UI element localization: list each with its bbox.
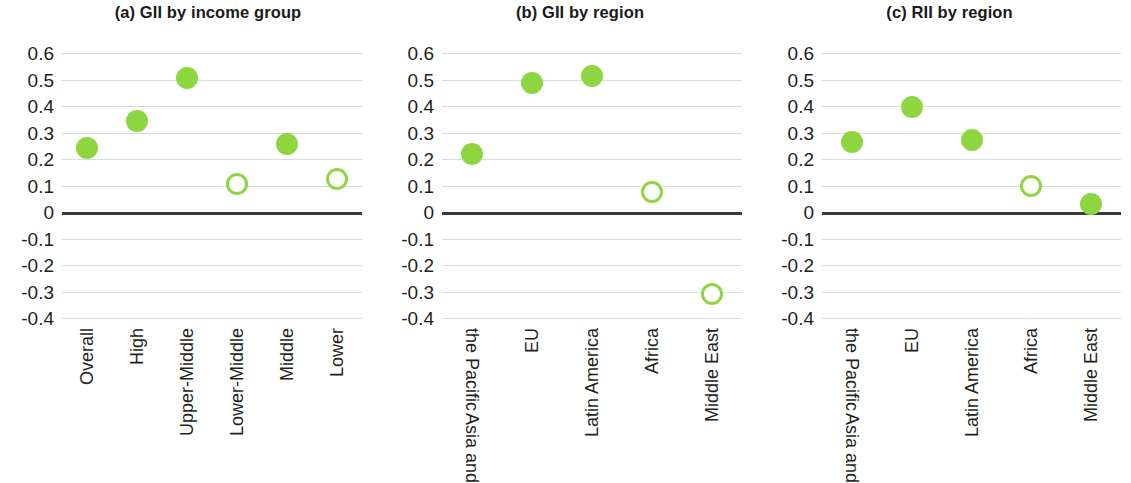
- y-axis-tick-label: 0.4: [28, 97, 54, 116]
- x-axis-category-label: Latin America: [582, 328, 602, 437]
- panel-b-plot-area: 0.60.50.40.30.20.10-0.1-0.2-0.3-0.4: [442, 53, 742, 318]
- gridline: [442, 106, 742, 107]
- y-axis-tick-label: -0.2: [401, 256, 434, 275]
- y-axis-tick-label: 0.5: [408, 70, 434, 89]
- gridline: [442, 318, 742, 319]
- data-point-marker: [276, 133, 298, 155]
- gridline: [822, 159, 1121, 160]
- data-point-marker: [1020, 175, 1042, 197]
- data-point-marker: [176, 67, 198, 89]
- gridline: [822, 292, 1121, 293]
- y-axis-tick-label: -0.3: [21, 282, 54, 301]
- gridline: [62, 159, 362, 160]
- gridline: [822, 265, 1121, 266]
- gridline: [442, 159, 742, 160]
- data-point-marker: [76, 137, 98, 159]
- y-axis-tick-label: 0.2: [28, 150, 54, 169]
- panel-a-x-axis-labels: OverallHighUpper-MiddleLower-MiddleMiddl…: [62, 322, 362, 456]
- x-axis-category-label: Latin America: [961, 328, 981, 437]
- y-axis-tick-label: -0.4: [21, 309, 54, 328]
- gridline: [822, 318, 1121, 319]
- gridline: [442, 265, 742, 266]
- x-axis-category-label: Lower-Middle: [227, 328, 247, 436]
- data-point-marker: [961, 129, 983, 151]
- y-axis-tick-label: 0.2: [408, 150, 434, 169]
- panel-b-title: (b) GII by region: [380, 3, 770, 22]
- y-axis-tick-label: 0.6: [788, 44, 814, 63]
- gridline: [62, 133, 362, 134]
- x-axis-category-label: Lower: [327, 328, 347, 377]
- gridline: [442, 133, 742, 134]
- zero-axis-line: [442, 212, 742, 215]
- gridline: [62, 80, 362, 81]
- panel-a-title: (a) GII by income group: [0, 3, 398, 22]
- gridline: [822, 239, 1121, 240]
- x-axis-category-label: Middle East: [702, 328, 722, 422]
- y-axis-tick-label: 0.6: [28, 44, 54, 63]
- gridline: [62, 265, 362, 266]
- y-axis-tick-label: -0.1: [401, 229, 434, 248]
- gridline: [822, 80, 1121, 81]
- x-axis-category-label: EU: [522, 328, 542, 353]
- y-axis-tick-label: 0.1: [28, 176, 54, 195]
- y-axis-tick-label: 0: [423, 203, 434, 222]
- gridline: [62, 239, 362, 240]
- gridline: [822, 106, 1121, 107]
- y-axis-tick-label: -0.2: [21, 256, 54, 275]
- data-point-marker: [226, 173, 248, 195]
- y-axis-tick-label: -0.3: [781, 282, 814, 301]
- x-axis-category-label: Overall: [77, 328, 97, 385]
- y-axis-tick-label: -0.2: [781, 256, 814, 275]
- y-axis-tick-label: 0: [43, 203, 54, 222]
- panel-a: (a) GII by income group 0.60.50.40.30.20…: [0, 0, 380, 456]
- data-point-marker: [841, 131, 863, 153]
- y-axis-tick-label: 0.1: [788, 176, 814, 195]
- x-axis-category-label: Asia andthe Pacific: [842, 328, 862, 483]
- x-axis-category-label: Asia andthe Pacific: [462, 328, 482, 483]
- x-axis-category-label: EU: [902, 328, 922, 353]
- y-axis-tick-label: 0.6: [408, 44, 434, 63]
- gridline: [62, 318, 362, 319]
- y-axis-tick-label: -0.4: [781, 309, 814, 328]
- x-axis-category-label: Middle East: [1081, 328, 1101, 422]
- data-point-marker: [326, 168, 348, 190]
- y-axis-tick-label: 0.2: [788, 150, 814, 169]
- panel-c: (c) RII by region 0.60.50.40.30.20.10-0.…: [760, 0, 1131, 456]
- y-axis-tick-label: 0: [803, 203, 814, 222]
- x-axis-category-label: Africa: [1021, 328, 1041, 374]
- gridline: [442, 292, 742, 293]
- data-point-marker: [521, 72, 543, 94]
- x-axis-category-label: Africa: [642, 328, 662, 374]
- data-point-marker: [901, 96, 923, 118]
- y-axis-tick-label: -0.1: [21, 229, 54, 248]
- y-axis-tick-label: -0.3: [401, 282, 434, 301]
- data-point-marker: [1080, 193, 1102, 215]
- panel-b: (b) GII by region 0.60.50.40.30.20.10-0.…: [380, 0, 760, 456]
- y-axis-tick-label: 0.1: [408, 176, 434, 195]
- gridline: [822, 53, 1121, 54]
- y-axis-tick-label: 0.4: [788, 97, 814, 116]
- y-axis-tick-label: 0.5: [28, 70, 54, 89]
- data-point-marker: [461, 143, 483, 165]
- gridline: [442, 186, 742, 187]
- y-axis-tick-label: 0.4: [408, 97, 434, 116]
- gridline: [442, 53, 742, 54]
- data-point-marker: [581, 65, 603, 87]
- panel-a-plot-area: 0.60.50.40.30.20.10-0.1-0.2-0.3-0.4: [62, 53, 362, 318]
- panel-c-x-axis-labels: Asia andthe PacificEULatin AmericaAfrica…: [822, 322, 1121, 456]
- panel-c-title: (c) RII by region: [760, 3, 1131, 22]
- x-axis-category-label: Middle: [277, 328, 297, 381]
- zero-axis-line: [62, 212, 362, 215]
- x-axis-category-label: Upper-Middle: [177, 328, 197, 436]
- gridline: [62, 106, 362, 107]
- y-axis-tick-label: -0.1: [781, 229, 814, 248]
- panel-c-plot-area: 0.60.50.40.30.20.10-0.1-0.2-0.3-0.4: [822, 53, 1121, 318]
- y-axis-tick-label: 0.3: [788, 123, 814, 142]
- y-axis-tick-label: 0.3: [28, 123, 54, 142]
- zero-axis-line: [822, 212, 1121, 215]
- y-axis-tick-label: 0.3: [408, 123, 434, 142]
- gridline: [62, 186, 362, 187]
- x-axis-category-label: High: [127, 328, 147, 365]
- data-point-marker: [126, 110, 148, 132]
